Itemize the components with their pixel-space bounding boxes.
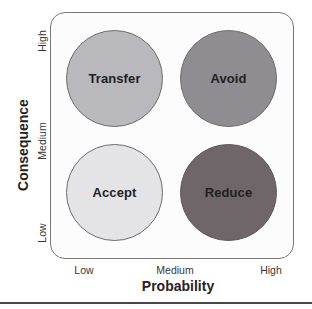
y-tick-medium: Medium	[36, 122, 48, 159]
quadrant-label-avoid: Avoid	[210, 71, 246, 86]
quadrant-label-reduce: Reduce	[205, 185, 253, 200]
x-tick-high: High	[260, 264, 282, 276]
quadrant-accept: Accept	[66, 144, 163, 241]
y-tick-high: High	[36, 30, 48, 52]
y-tick-low: Low	[36, 223, 48, 242]
quadrant-label-accept: Accept	[93, 185, 137, 200]
quadrant-transfer: Transfer	[66, 30, 163, 127]
y-axis-title: Consequence	[15, 99, 31, 191]
quadrant-avoid: Avoid	[180, 30, 277, 127]
quadrant-reduce: Reduce	[180, 144, 277, 241]
quadrant-label-transfer: Transfer	[88, 71, 140, 86]
bottom-rule	[0, 302, 312, 304]
x-axis-title: Probability	[142, 278, 214, 294]
x-tick-low: Low	[74, 264, 93, 276]
x-tick-medium: Medium	[156, 264, 193, 276]
